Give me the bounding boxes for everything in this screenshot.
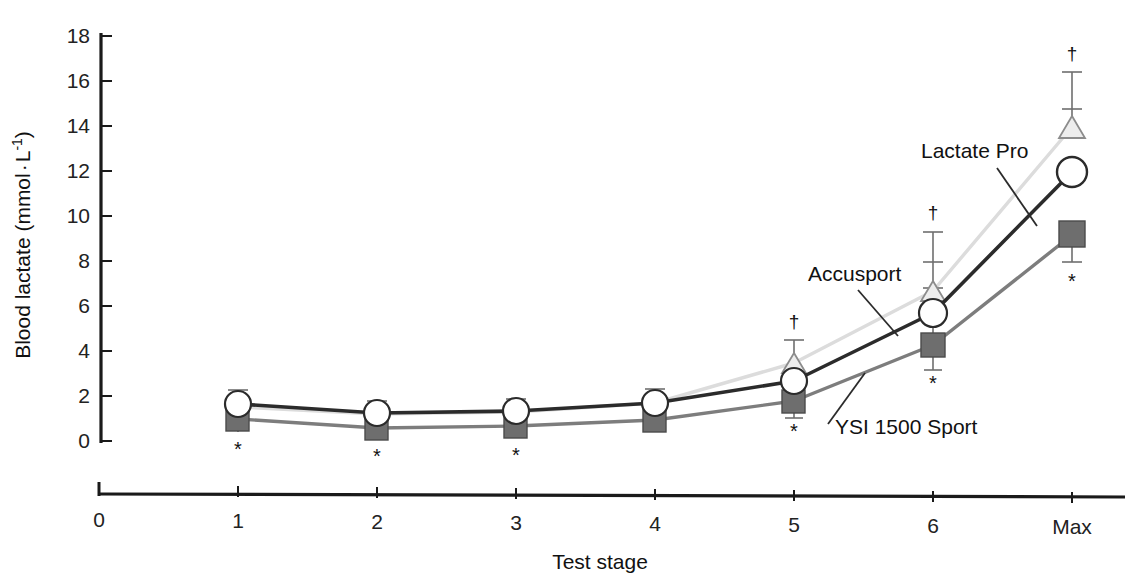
- ylabel-close: ): [11, 131, 34, 138]
- x-tick-3: 3: [510, 511, 522, 534]
- annotation-accusport: Accusport: [808, 262, 902, 336]
- marker-ysi-max: [1059, 221, 1085, 247]
- y-tick-18: 18: [67, 24, 90, 47]
- y-tick-0: 0: [78, 429, 90, 452]
- star-mark-stage2: *: [373, 445, 381, 467]
- ylabel-part1: Blood lactate (mmol: [11, 173, 34, 359]
- x-tick-0: 0: [93, 508, 105, 531]
- y-tick-10: 10: [67, 204, 90, 227]
- marker-accusport-2: [364, 400, 390, 426]
- marker-accusport-5: [781, 368, 807, 394]
- annotation-lactate-pro: Lactate Pro: [921, 139, 1037, 226]
- y-axis: [101, 33, 112, 443]
- figure-footer-strip: [0, 578, 1131, 584]
- marker-accusport-6: [919, 299, 947, 327]
- y-tick-8: 8: [78, 249, 90, 272]
- y-axis-title: Blood lactate (mmol·L-1): [9, 131, 34, 359]
- label-accusport: Accusport: [808, 262, 902, 285]
- marker-lactate-pro-max: [1059, 116, 1085, 138]
- star-mark-stage5: *: [790, 420, 798, 442]
- lactate-line-chart: 18 16 14 12 10 8 6 4 2 0 Blood lactate (…: [0, 0, 1131, 584]
- x-tick-1: 1: [232, 509, 244, 532]
- ylabel-sup: -1: [9, 138, 25, 151]
- label-ysi-1500-sport: YSI 1500 Sport: [835, 415, 978, 438]
- figure-container: 18 16 14 12 10 8 6 4 2 0 Blood lactate (…: [0, 0, 1131, 584]
- x-axis: [99, 482, 1125, 503]
- star-mark-stage3: *: [512, 444, 520, 466]
- x-tick-4: 4: [649, 512, 661, 535]
- x-tick-max: Max: [1052, 515, 1092, 538]
- star-mark-max: *: [1068, 270, 1076, 292]
- label-lactate-pro: Lactate Pro: [921, 139, 1028, 162]
- dagger-mark-max: †: [1067, 43, 1078, 64]
- y-tick-12: 12: [67, 159, 90, 182]
- star-mark-stage6: *: [929, 372, 937, 394]
- y-tick-labels: 18 16 14 12 10 8 6 4 2 0: [67, 24, 91, 452]
- series-accusport: [225, 157, 1087, 426]
- y-tick-6: 6: [78, 294, 90, 317]
- x-tick-6: 6: [927, 514, 939, 537]
- y-tick-2: 2: [78, 384, 90, 407]
- x-axis-title: Test stage: [552, 550, 648, 573]
- ylabel-part2: L: [11, 151, 34, 163]
- y-tick-16: 16: [67, 69, 90, 92]
- series-lactate-pro: † † †: [238, 43, 1085, 414]
- dagger-mark-stage6: †: [928, 202, 939, 223]
- marker-accusport-4: [642, 390, 668, 416]
- dagger-mark-stage5: †: [789, 311, 800, 332]
- star-mark-stage1: *: [234, 438, 242, 460]
- ylabel-dot: ·: [11, 164, 34, 171]
- x-tick-5: 5: [788, 513, 800, 536]
- svg-text:Blood lactate (mmol·L-1): Blood lactate (mmol·L-1): [9, 131, 34, 359]
- marker-ysi-6: [921, 333, 945, 357]
- y-tick-4: 4: [78, 339, 90, 362]
- annotation-ysi: YSI 1500 Sport: [828, 373, 978, 438]
- marker-accusport-3: [503, 398, 529, 424]
- y-tick-14: 14: [67, 114, 91, 137]
- x-tick-labels: 0 1 2 3 4 5 6 Max: [93, 508, 1092, 538]
- marker-accusport-1: [225, 391, 251, 417]
- marker-accusport-max: [1057, 157, 1087, 187]
- x-tick-2: 2: [371, 510, 383, 533]
